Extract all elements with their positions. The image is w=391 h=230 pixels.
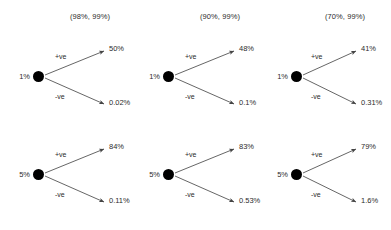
probability-tree: 5% +ve -ve 79% 1.6% <box>258 128 388 230</box>
probability-tree-figure: (98%, 99%) (90%, 99%) (70%, 99%) 1% +ve … <box>0 0 391 230</box>
edge-label-positive: +ve <box>311 151 322 158</box>
prior-probability-label: 1% <box>0 72 30 81</box>
leaf-value-negative: 0.02% <box>109 98 130 107</box>
edge-label-negative: -ve <box>185 191 195 198</box>
edge-label-positive: +ve <box>55 53 66 60</box>
column-header-3: (70%, 99%) <box>295 12 391 21</box>
edge-label-positive: +ve <box>311 53 322 60</box>
leaf-value-positive: 41% <box>361 44 376 53</box>
column-header-1: (98%, 99%) <box>40 12 140 21</box>
edge-label-positive: +ve <box>185 53 196 60</box>
tree-root-node <box>291 169 302 180</box>
probability-tree: 5% +ve -ve 84% 0.11% <box>0 128 130 230</box>
tree-root-node <box>33 169 44 180</box>
leaf-value-negative: 0.11% <box>109 196 130 205</box>
tree-root-node <box>163 169 174 180</box>
edge-label-negative: -ve <box>55 191 65 198</box>
leaf-value-positive: 84% <box>109 142 124 151</box>
leaf-value-positive: 50% <box>109 44 124 53</box>
leaf-value-positive: 79% <box>361 142 376 151</box>
probability-tree: 1% +ve -ve 48% 0.1% <box>130 30 260 135</box>
edge-label-positive: +ve <box>185 151 196 158</box>
edge-label-positive: +ve <box>55 151 66 158</box>
prior-probability-label: 1% <box>258 72 288 81</box>
column-header-2: (90%, 99%) <box>170 12 270 21</box>
leaf-value-negative: 1.6% <box>361 196 378 205</box>
tree-root-node <box>291 71 302 82</box>
leaf-value-negative: 0.31% <box>361 98 382 107</box>
prior-probability-label: 1% <box>130 72 160 81</box>
edge-label-negative: -ve <box>55 93 65 100</box>
probability-tree: 1% +ve -ve 41% 0.31% <box>258 30 388 135</box>
prior-probability-label: 5% <box>0 170 30 179</box>
probability-tree: 1% +ve -ve 50% 0.02% <box>0 30 130 135</box>
leaf-value-positive: 48% <box>239 44 254 53</box>
probability-tree: 5% +ve -ve 83% 0.53% <box>130 128 260 230</box>
prior-probability-label: 5% <box>130 170 160 179</box>
edge-label-negative: -ve <box>311 191 321 198</box>
leaf-value-negative: 0.1% <box>239 98 256 107</box>
leaf-value-positive: 83% <box>239 142 254 151</box>
tree-root-node <box>33 71 44 82</box>
edge-label-negative: -ve <box>311 93 321 100</box>
edge-label-negative: -ve <box>185 93 195 100</box>
tree-root-node <box>163 71 174 82</box>
prior-probability-label: 5% <box>258 170 288 179</box>
